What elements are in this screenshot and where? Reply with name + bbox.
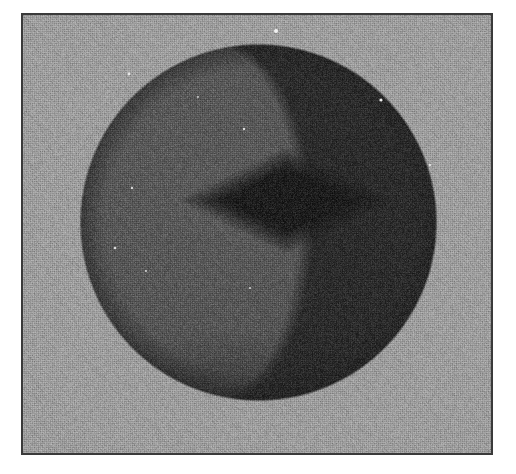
scanned-plate	[21, 13, 493, 455]
sphere-render-canvas	[23, 15, 491, 453]
figure-root: shaded faceted sphere	[0, 0, 516, 474]
